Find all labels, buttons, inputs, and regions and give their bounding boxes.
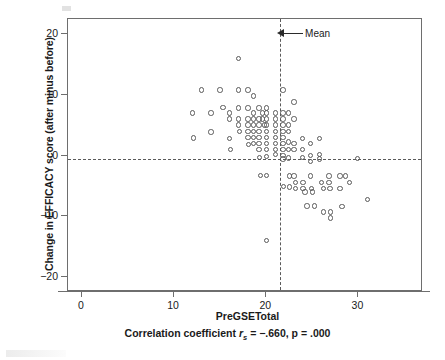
data-point: [328, 209, 333, 214]
x-tick-mark: [357, 291, 358, 297]
data-point: [236, 56, 241, 61]
data-point: [321, 209, 326, 214]
scan-artifact-top: [62, 6, 71, 11]
data-point: [339, 204, 344, 209]
data-point: [365, 197, 370, 202]
data-point: [256, 141, 261, 146]
data-point: [228, 147, 233, 152]
data-point: [245, 129, 250, 134]
data-point: [300, 147, 305, 152]
data-point: [273, 152, 278, 157]
data-point: [326, 180, 331, 185]
caption-value: = −.660, p = .000: [247, 327, 330, 339]
data-point: [245, 105, 250, 110]
data-point: [191, 135, 196, 140]
data-point: [264, 173, 269, 178]
data-point: [328, 215, 333, 220]
data-point: [300, 136, 305, 141]
data-point: [273, 135, 278, 140]
mean-change-hline: [68, 159, 421, 160]
data-point: [264, 116, 269, 121]
data-point: [236, 105, 241, 110]
mean-annotation-label: Mean: [305, 28, 330, 39]
data-point: [256, 135, 261, 140]
plot-area: Mean: [67, 18, 422, 291]
data-point: [264, 238, 269, 243]
y-tick-label: 20: [18, 28, 58, 38]
data-point: [264, 135, 269, 140]
scan-artifact-bottom: [6, 350, 66, 357]
data-point: [245, 122, 250, 127]
data-point: [300, 180, 305, 185]
y-tick-label: 10: [18, 89, 58, 99]
data-point: [327, 186, 332, 191]
data-point: [217, 87, 222, 92]
data-point: [227, 136, 232, 141]
data-point: [321, 186, 326, 191]
data-point: [291, 116, 296, 121]
x-axis-title: PreGSETotal: [0, 310, 445, 322]
data-point: [273, 110, 278, 115]
data-point: [227, 116, 232, 121]
data-point: [256, 147, 261, 152]
data-point: [286, 110, 291, 115]
mean-vline: [280, 19, 281, 290]
data-point: [281, 184, 286, 189]
data-point: [337, 186, 342, 191]
data-point: [258, 173, 263, 178]
data-point: [199, 87, 204, 92]
x-tick-mark: [173, 291, 174, 297]
data-point: [326, 173, 331, 178]
data-point: [273, 122, 278, 127]
figure-caption: Correlation coefficient rs = −.660, p = …: [0, 327, 445, 342]
data-point: [273, 129, 278, 134]
caption-prefix: Correlation coefficient: [125, 327, 239, 339]
data-point: [291, 141, 296, 146]
data-point: [291, 147, 296, 152]
data-point: [208, 129, 213, 134]
data-point: [208, 110, 213, 115]
data-point: [302, 189, 307, 194]
data-point: [256, 122, 261, 127]
x-axis-line: [58, 291, 430, 292]
data-point: [319, 180, 324, 185]
y-tick-label: 0: [18, 150, 58, 160]
data-point: [256, 129, 261, 134]
data-point: [264, 147, 269, 152]
data-point: [304, 203, 309, 208]
x-tick-mark: [265, 291, 266, 297]
data-point: [310, 189, 315, 194]
scatter-plot-figure: Change in EFFICACY score (after minus be…: [0, 0, 445, 360]
data-point: [236, 122, 241, 127]
x-tick-mark: [81, 291, 82, 297]
y-tick-label: −20: [18, 271, 58, 281]
data-point: [237, 129, 242, 134]
data-point: [251, 110, 256, 115]
data-point: [287, 184, 292, 189]
data-point: [337, 173, 342, 178]
data-point: [312, 203, 317, 208]
mean-annotation: Mean: [277, 27, 330, 39]
data-point: [291, 173, 296, 178]
data-point: [293, 186, 298, 191]
data-point: [273, 141, 278, 146]
data-point: [286, 129, 291, 134]
data-point: [264, 122, 269, 127]
data-point: [293, 180, 298, 185]
data-point: [343, 173, 348, 178]
data-point: [251, 93, 256, 98]
data-point: [273, 116, 278, 121]
data-point: [227, 110, 232, 115]
data-point: [245, 135, 250, 140]
data-point: [245, 87, 250, 92]
data-point: [264, 141, 269, 146]
data-point: [308, 153, 313, 158]
data-point: [190, 110, 195, 115]
data-point: [220, 105, 225, 110]
data-point: [308, 141, 313, 146]
data-point: [245, 116, 250, 121]
data-point: [286, 122, 291, 127]
y-tick-label: −10: [18, 210, 58, 220]
left-arrow-icon: [277, 29, 303, 38]
data-point: [236, 87, 241, 92]
